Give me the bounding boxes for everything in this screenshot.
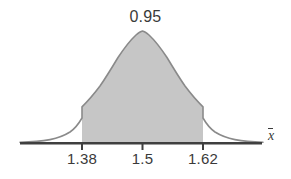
overbar-accent <box>268 128 273 129</box>
tick-label-mean: 1.5 <box>113 151 173 166</box>
tick-label-lower-bound: 1.38 <box>52 151 112 166</box>
area-probability-label: 0.95 <box>0 9 291 25</box>
tick-label-upper-bound: 1.62 <box>173 151 233 166</box>
x-axis-title-symbol: x <box>268 128 274 143</box>
normal-distribution-figure: 0.95 1.38 1.5 1.62 x <box>0 0 291 179</box>
x-axis-title: x <box>268 128 274 143</box>
